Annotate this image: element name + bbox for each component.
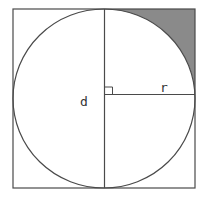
- radius-label: r: [160, 80, 168, 95]
- shaded-corner-region: [104, 9, 195, 97]
- circle-in-square-diagram: d r: [0, 0, 206, 198]
- right-angle-marker: [105, 87, 113, 95]
- diameter-label: d: [80, 94, 88, 109]
